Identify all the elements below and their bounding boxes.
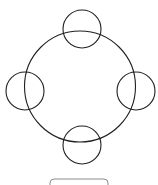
ring-diagram (0, 0, 158, 185)
diagram-canvas (0, 0, 158, 185)
node-circle-bottom[interactable] (63, 126, 101, 164)
node-circle-right[interactable] (117, 72, 155, 110)
caption-panel[interactable] (50, 179, 108, 185)
node-circle-top[interactable] (63, 10, 101, 48)
